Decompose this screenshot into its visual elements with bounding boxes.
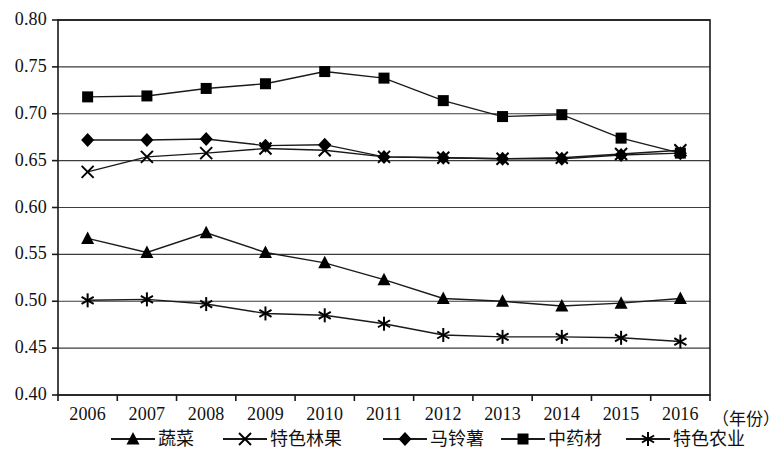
marker-square — [319, 66, 330, 77]
marker-square — [518, 434, 529, 445]
chart-legend: 蔬菜特色林果马铃薯中药材特色农业 — [0, 424, 772, 457]
x-axis-tick-label: 2015 — [591, 404, 650, 425]
legend-label: 中药材 — [546, 424, 602, 454]
marker-square — [201, 83, 212, 94]
legend-label: 特色农业 — [671, 424, 745, 454]
legend-item-3[interactable]: 马铃薯 — [382, 424, 484, 454]
legend-glyph — [626, 432, 670, 446]
y-axis-tick-label: 0.70 — [0, 103, 47, 124]
legend-glyph — [223, 433, 267, 445]
x-axis-tick-label: 2016 — [651, 404, 710, 425]
x-axis-tick-label: 2008 — [177, 404, 236, 425]
y-axis-tick-label: 0.75 — [0, 56, 47, 77]
legend-label: 蔬菜 — [156, 424, 194, 454]
legend-marker-diamond-icon — [382, 428, 428, 450]
marker-square — [556, 109, 567, 120]
y-axis-tick-label: 0.65 — [0, 150, 47, 171]
marker-square — [497, 111, 508, 122]
legend-item-2[interactable]: 特色林果 — [222, 424, 342, 454]
x-axis-tick-label: 2006 — [58, 404, 117, 425]
marker-diamond — [399, 432, 412, 446]
line-chart-plot — [0, 0, 772, 457]
legend-glyph — [501, 434, 545, 445]
x-axis-tick-label: 2007 — [117, 404, 176, 425]
marker-square — [438, 95, 449, 106]
x-axis-tick-label: 2013 — [473, 404, 532, 425]
legend-marker-square-icon — [500, 428, 546, 450]
legend-item-1[interactable]: 蔬菜 — [110, 424, 194, 454]
legend-glyph — [111, 432, 155, 445]
legend-marker-asterisk-icon — [625, 428, 671, 450]
legend-marker-triangle-icon — [110, 428, 156, 450]
y-axis-tick-label: 0.55 — [0, 243, 47, 264]
x-axis-tick-label: 2010 — [295, 404, 354, 425]
x-axis-tick-label: 2011 — [354, 404, 413, 425]
legend-marker-x-icon — [222, 428, 268, 450]
marker-square — [260, 78, 271, 89]
x-axis-tick-label: 2009 — [236, 404, 295, 425]
legend-glyph — [383, 432, 427, 446]
y-axis-tick-label: 0.45 — [0, 337, 47, 358]
y-axis-tick-label: 0.80 — [0, 9, 47, 30]
y-axis-tick-label: 0.50 — [0, 290, 47, 311]
legend-item-5[interactable]: 特色农业 — [625, 424, 745, 454]
marker-square — [141, 90, 152, 101]
marker-square — [616, 133, 627, 144]
x-axis-tick-label: 2012 — [414, 404, 473, 425]
marker-square — [379, 73, 390, 84]
marker-square — [675, 148, 686, 159]
chart-figure: 0.800.750.700.650.600.550.500.450.40 200… — [0, 0, 772, 457]
y-axis-tick-label: 0.60 — [0, 197, 47, 218]
x-axis-tick-label: 2014 — [532, 404, 591, 425]
legend-item-4[interactable]: 中药材 — [500, 424, 602, 454]
marker-square — [82, 91, 93, 102]
legend-label: 马铃薯 — [428, 424, 484, 454]
y-axis-tick-label: 0.40 — [0, 384, 47, 405]
legend-label: 特色林果 — [268, 424, 342, 454]
